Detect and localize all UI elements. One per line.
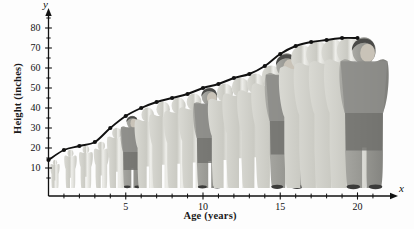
x-axis-variable-label: x bbox=[399, 182, 404, 194]
x-axis-tick-label: 20 bbox=[348, 201, 368, 212]
y-axis-tick-label: 70 bbox=[23, 42, 41, 53]
y-axis-tick-label: 10 bbox=[23, 162, 41, 173]
y-axis-variable-label: y bbox=[43, 0, 48, 10]
plot-area: y x Height (inches) Age (years) 10203040… bbox=[0, 0, 414, 229]
labels-layer: y x Height (inches) Age (years) 10203040… bbox=[0, 0, 414, 229]
growth-chart-figure: y x Height (inches) Age (years) 10203040… bbox=[0, 0, 414, 229]
y-axis-tick-label: 40 bbox=[23, 102, 41, 113]
y-axis-tick-label: 30 bbox=[23, 122, 41, 133]
x-axis-tick-label: 5 bbox=[116, 201, 136, 212]
y-axis-tick-label: 50 bbox=[23, 82, 41, 93]
x-axis-tick-label: 15 bbox=[270, 201, 290, 212]
y-axis-tick-label: 80 bbox=[23, 22, 41, 33]
y-axis-tick-label: 20 bbox=[23, 142, 41, 153]
y-axis-tick-label: 60 bbox=[23, 62, 41, 73]
x-axis-tick-label: 10 bbox=[193, 201, 213, 212]
y-axis-title: Height (inches) bbox=[12, 51, 23, 147]
